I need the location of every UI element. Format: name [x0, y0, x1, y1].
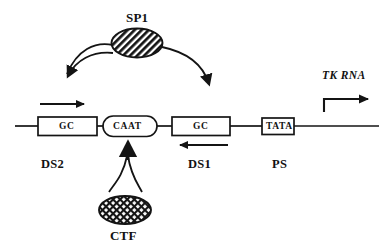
- tata-box-label: TATA: [266, 122, 293, 132]
- ctf-to-caat-arrow: [109, 143, 142, 192]
- gc-box-proximal-label: GC: [193, 122, 208, 132]
- transcription-start-arrow: [324, 99, 368, 112]
- sp1-to-ds2-arrow: [67, 44, 113, 76]
- tk-rna-label: TK RNA: [322, 70, 366, 82]
- caat-box-label: CAAT: [113, 122, 142, 132]
- ctf-label: CTF: [110, 229, 137, 242]
- sp1-to-ds1-arrow: [162, 47, 209, 84]
- ctf-ellipse: [99, 196, 151, 224]
- gc-box-distal-label: GC: [59, 122, 74, 132]
- ds1-label: DS1: [188, 158, 211, 171]
- figure-canvas: SP1 CTF GC CAAT GC TATA DS2 DS1 PS TK RN…: [0, 0, 384, 250]
- sp1-ellipse: [112, 29, 163, 58]
- promoter-diagram: [0, 0, 384, 250]
- sp1-label: SP1: [126, 11, 148, 24]
- ds2-label: DS2: [41, 158, 64, 171]
- ps-label: PS: [272, 158, 287, 171]
